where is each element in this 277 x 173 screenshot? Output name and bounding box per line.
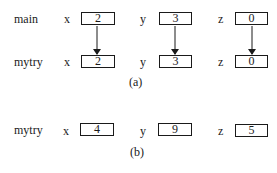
var-name-x: x [64, 55, 70, 69]
value-box-main-x: 2 [81, 12, 115, 25]
value-box-mytry-z: 0 [235, 55, 268, 68]
value-box-x: 4 [80, 123, 114, 136]
value-box-y: 9 [158, 123, 192, 136]
value-box-main-y: 3 [159, 12, 192, 25]
var-name-z: z [218, 55, 223, 69]
var-name-y: y [140, 12, 146, 26]
value-box-z: 5 [235, 124, 268, 137]
caption-a: (a) [129, 75, 142, 89]
value-box-mytry-y: 3 [159, 55, 192, 68]
scope-label-mytry: mytry [14, 55, 43, 69]
value-box-mytry-x: 2 [81, 55, 115, 68]
var-name-x: x [63, 124, 69, 138]
var-name-x: x [64, 12, 70, 26]
var-name-z: z [218, 124, 223, 138]
var-name-y: y [140, 55, 146, 69]
scope-label-main: main [14, 12, 38, 26]
var-name-z: z [218, 12, 223, 26]
scope-label-mytry: mytry [14, 123, 43, 137]
value-box-main-z: 0 [235, 12, 268, 25]
caption-b: (b) [130, 145, 144, 159]
var-name-y: y [140, 124, 146, 138]
